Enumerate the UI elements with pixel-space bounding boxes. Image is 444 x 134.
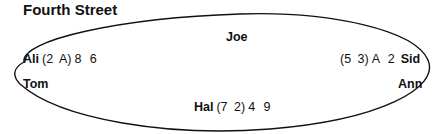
- seat-sid: (5 3)A 2Sid: [340, 52, 420, 66]
- player-name: Tom: [23, 77, 48, 91]
- hole-cards: (5 3): [340, 52, 369, 66]
- player-name: Ali: [23, 52, 39, 66]
- seat-hal: Hal(7 2)4 9: [194, 100, 271, 114]
- player-name: Sid: [401, 52, 420, 66]
- player-name: Joe: [226, 30, 248, 44]
- diagram-title: Fourth Street: [23, 1, 117, 18]
- seat-tom: Tom: [23, 77, 48, 91]
- seat-joe: Joe: [226, 30, 248, 44]
- up-cards: 8 6: [74, 52, 96, 66]
- up-cards: A 2: [372, 52, 395, 66]
- seat-ali: Ali(2 A)8 6: [23, 52, 97, 66]
- up-cards: 4 9: [248, 100, 270, 114]
- player-name: Ann: [398, 77, 422, 91]
- hole-cards: (7 2): [216, 100, 245, 114]
- seat-ann: Ann: [398, 77, 422, 91]
- player-name: Hal: [194, 100, 213, 114]
- hole-cards: (2 A): [42, 52, 71, 66]
